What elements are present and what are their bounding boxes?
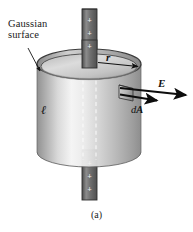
gauss-law-cylinder-figure: + + + + + + Gaussian surface r ℓ E dA (a…: [0, 0, 193, 232]
electric-field-label: E: [158, 78, 165, 90]
area-element-A: A: [136, 104, 143, 115]
charge-plus-top-2: +: [86, 30, 94, 38]
figure-caption: (a): [0, 210, 193, 221]
gaussian-surface-label: Gaussian surface: [8, 18, 47, 40]
charge-plus-bottom-3: +: [86, 186, 94, 194]
charge-plus-top-1: +: [86, 17, 94, 25]
charge-plus-top-3: +: [86, 43, 94, 51]
radius-label: r: [106, 52, 110, 64]
charge-plus-bottom-1: +: [86, 160, 94, 168]
gaussian-surface-leader-line: [28, 48, 40, 71]
charge-plus-bottom-2: +: [86, 173, 94, 181]
area-element-label: dA: [131, 104, 143, 115]
length-label: ℓ: [41, 104, 46, 117]
